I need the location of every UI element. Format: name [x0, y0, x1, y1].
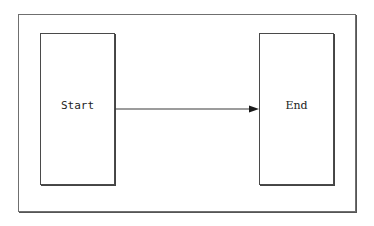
arrowhead-icon [249, 106, 259, 113]
edges-layer [0, 0, 374, 226]
start-to-end-edge[interactable] [115, 106, 259, 113]
